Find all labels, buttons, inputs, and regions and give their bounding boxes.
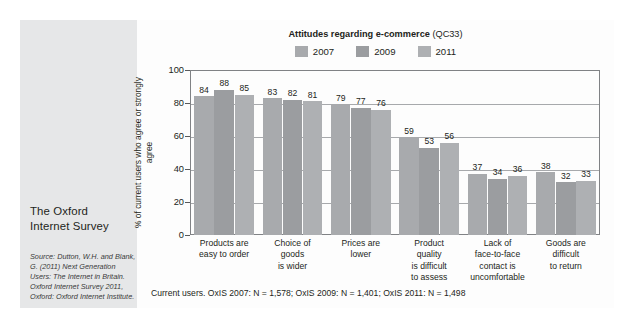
chart-area: Attitudes regarding e-commerce (QC33) 20… [137, 20, 614, 308]
bars-layer: 848885838281797776595356373436383233 [190, 70, 600, 235]
y-axis-title: % of current users who agree or strongly… [133, 70, 155, 235]
x-axis-category-line: lower [327, 249, 395, 260]
x-axis-category-label: Productqualityis difficultto assess [395, 238, 463, 284]
bar[interactable] [576, 181, 596, 235]
bar-value-label: 36 [506, 164, 530, 174]
legend-label: 2007 [313, 46, 334, 57]
y-tick-label: 40 [160, 164, 184, 174]
y-tick-label: 100 [160, 65, 184, 75]
bar-group: 373436 [463, 70, 531, 235]
y-tick-label: 80 [160, 98, 184, 108]
bar-group: 595356 [395, 70, 463, 235]
chart-legend: 2007 2009 2011 [137, 46, 614, 57]
bar[interactable] [440, 143, 460, 235]
x-axis-category-line: Products are [190, 238, 258, 249]
bar[interactable] [351, 108, 371, 235]
x-axis-category-label: Products areeasy to order [190, 238, 258, 261]
bar[interactable] [235, 95, 255, 235]
bar-value-label: 59 [397, 126, 421, 136]
bar[interactable] [399, 138, 419, 235]
x-axis-category-label: Lack offace-to-facecontact isuncomfortab… [463, 238, 531, 284]
x-axis-category-line: Product [395, 238, 463, 249]
x-axis-category-line: quality [395, 249, 463, 260]
x-axis-category-line: goods [258, 249, 326, 260]
bar[interactable] [194, 96, 214, 235]
x-axis-category-label: Goods aredifficultto return [532, 238, 600, 272]
chart-footnote: Current users. OxIS 2007: N = 1,578; OxI… [151, 288, 465, 298]
legend-label: 2011 [436, 46, 457, 57]
x-axis-category-line: Choice of [258, 238, 326, 249]
bar-group: 838281 [258, 70, 326, 235]
x-axis-category-label: Prices arelower [327, 238, 395, 261]
x-axis-category-line: Goods are [532, 238, 600, 249]
bar[interactable] [488, 179, 508, 235]
y-tick-label: 20 [160, 197, 184, 207]
x-axis-category-line: Prices are [327, 238, 395, 249]
x-axis-category-line: contact is [463, 261, 531, 272]
x-axis-category-line: Lack of [463, 238, 531, 249]
bar-value-label: 81 [301, 90, 325, 100]
legend-swatch-icon [418, 46, 431, 57]
x-axis-category-line: uncomfortable [463, 272, 531, 283]
chart-title-main: Attitudes regarding e-commerce [288, 29, 429, 39]
x-axis-category-line: to return [532, 261, 600, 272]
legend-item[interactable]: 2007 [295, 46, 334, 57]
x-axis-category-line: easy to order [190, 249, 258, 260]
legend-label: 2009 [374, 46, 395, 57]
y-tick-label: 0 [160, 230, 184, 240]
bar-group: 848885 [190, 70, 258, 235]
x-axis-category-line: is difficult [395, 261, 463, 272]
y-tick-label: 60 [160, 131, 184, 141]
bar[interactable] [214, 90, 234, 235]
bar-value-label: 38 [534, 161, 558, 171]
bar[interactable] [283, 100, 303, 235]
bar-group: 383233 [532, 70, 600, 235]
bar[interactable] [556, 182, 576, 235]
x-axis-category-line: to assess [395, 272, 463, 283]
sidebar-source-citation: Source: Dutton, W.H. and Blank, G. (2011… [30, 252, 136, 302]
bar-value-label: 76 [369, 98, 393, 108]
legend-swatch-icon [356, 46, 369, 57]
bar[interactable] [508, 176, 528, 235]
bar-value-label: 85 [232, 83, 256, 93]
y-tick-mark [185, 235, 190, 236]
sidebar: The Oxford Internet Survey Source: Dutto… [20, 20, 137, 308]
legend-swatch-icon [295, 46, 308, 57]
bar[interactable] [263, 98, 283, 235]
bar[interactable] [331, 105, 351, 235]
legend-item[interactable]: 2011 [418, 46, 457, 57]
chart-title-code: (QC33) [432, 29, 462, 39]
bar-value-label: 33 [574, 169, 598, 179]
bar-group: 797776 [327, 70, 395, 235]
bar[interactable] [419, 148, 439, 235]
x-axis-category-label: Choice ofgoodsis wider [258, 238, 326, 272]
x-axis-category-line: is wider [258, 261, 326, 272]
bar-value-label: 56 [437, 131, 461, 141]
page-root: The Oxford Internet Survey Source: Dutto… [0, 0, 630, 325]
bar[interactable] [371, 110, 391, 235]
bar[interactable] [536, 172, 556, 235]
x-axis-category-line: face-to-face [463, 249, 531, 260]
bar[interactable] [303, 101, 323, 235]
x-axis-category-line: difficult [532, 249, 600, 260]
bar[interactable] [468, 174, 488, 235]
chart-title: Attitudes regarding e-commerce (QC33) [137, 29, 614, 39]
sidebar-heading: The Oxford Internet Survey [30, 204, 134, 233]
legend-item[interactable]: 2009 [356, 46, 395, 57]
